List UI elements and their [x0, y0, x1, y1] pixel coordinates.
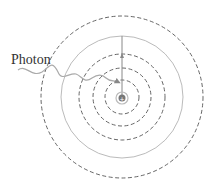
atom-diagram: + Photon [0, 0, 214, 192]
nucleus-charge: + [119, 95, 124, 102]
diagram-canvas: + [0, 0, 214, 192]
nucleus: + [116, 92, 128, 104]
photon-label: Photon [11, 52, 51, 68]
